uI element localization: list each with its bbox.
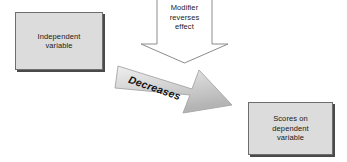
modifier-arrow-label: Modifier reverses effect: [157, 3, 212, 32]
node-scores-on-dependent-variable-label: Scores on dependent variable: [272, 114, 308, 143]
decreases-arrow-shape: [115, 66, 232, 113]
node-scores-on-dependent-variable: Scores on dependent variable: [248, 102, 333, 155]
node-independent-variable: Independent variable: [15, 12, 103, 70]
diagram-canvas: Modifier reverses effect Decreases Indep…: [0, 0, 347, 162]
node-independent-variable-label: Independent variable: [38, 32, 81, 51]
